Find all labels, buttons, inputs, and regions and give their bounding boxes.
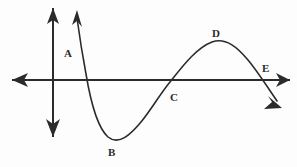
point-label-d: D [212,28,220,39]
point-label-c: C [170,92,178,103]
point-label-a: A [64,48,72,59]
graph-canvas [0,0,297,167]
curve-end-arrowhead [264,96,282,109]
point-label-e: E [262,63,269,74]
graph-figure: ABCDE [0,0,297,167]
curve-start-arrowhead [72,10,82,27]
point-label-b: B [108,147,115,158]
